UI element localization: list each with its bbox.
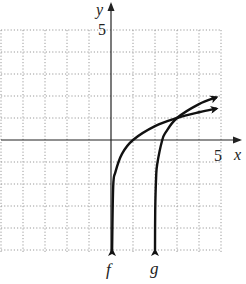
x-axis-label: x <box>233 146 241 163</box>
curve-f-label: f <box>106 260 113 279</box>
curve-g-label: g <box>150 259 159 278</box>
y-tick-5: 5 <box>98 21 106 38</box>
y-axis-label: y <box>94 1 104 19</box>
curve-f <box>112 109 217 250</box>
curve-g <box>155 97 217 250</box>
x-tick-5: 5 <box>214 147 222 164</box>
graph-canvas: y 5 5 x f g <box>0 0 246 284</box>
